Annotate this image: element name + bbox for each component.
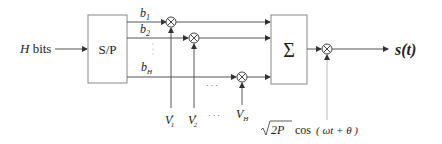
output-label: s(t) (394, 41, 416, 59)
horizontal-ellipsis-top: · · · (206, 81, 218, 90)
horizontal-ellipsis-bottom: · · · (208, 111, 220, 120)
bit-label-h: bH (141, 60, 153, 76)
branch-h: bH VH (127, 60, 270, 123)
multiplier-icon (189, 33, 199, 43)
svg-text:2P: 2P (271, 123, 285, 137)
sum-label: Σ (283, 39, 295, 61)
multiplier-icon (322, 44, 332, 54)
svg-text:( ωt + θ ): ( ωt + θ ) (316, 124, 358, 137)
voltage-label-2: Vr2 (188, 113, 198, 129)
summation-block: Σ (271, 15, 307, 84)
serial-to-parallel-block: S/P (88, 15, 127, 83)
multiplier-icon (166, 17, 176, 27)
ofdm-modulator-diagram: H bits S/P b1 Vr1 b2 Vr2 (0, 0, 442, 144)
carrier-label: 2P cos ( ωt + θ ) (261, 121, 358, 137)
svg-text:cos: cos (295, 123, 311, 137)
input-label: H bits (19, 41, 51, 56)
bit-label-1: b1 (140, 6, 150, 22)
sp-label: S/P (98, 42, 116, 57)
multiplier-icon (237, 72, 247, 82)
bit-label-2: b2 (140, 22, 150, 38)
vertical-ellipsis (152, 43, 153, 54)
voltage-label-h: VH (236, 107, 249, 123)
voltage-label-1: Vr1 (165, 113, 174, 129)
